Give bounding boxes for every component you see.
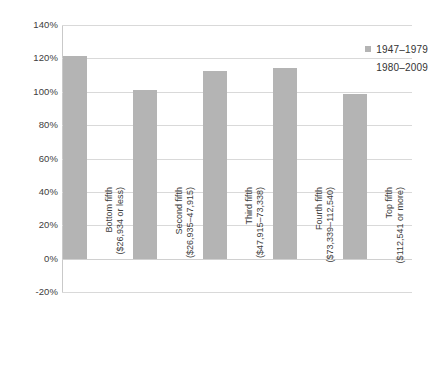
legend-item[interactable]: 1980–2009 [296, 58, 428, 76]
category-label-line2: ($26,934 or less) [115, 187, 126, 297]
legend-label: 1980–2009 [376, 62, 428, 73]
bar-chart: 140%120%100%80%60%40%20%0%-20% Bottom fi… [0, 0, 441, 378]
x-axis-category-label: Fourth fifth($73,339–112,540) [314, 187, 335, 297]
legend-item[interactable]: 1947–1979 [296, 40, 428, 58]
category-label-line2: ($26,935–47,915) [185, 187, 196, 297]
x-axis-category-label: Bottom fifth($26,934 or less) [104, 187, 125, 297]
legend-swatch-icon [365, 46, 371, 52]
category-label-line1: Fourth fifth [314, 187, 325, 297]
category-label-line2: ($47,915–73,338) [255, 187, 266, 297]
category-label-line2: ($73,339–112,540) [325, 187, 336, 297]
x-axis-category-label: Third fifth($47,915–73,338) [244, 187, 265, 297]
x-axis-category-label: Second fifth($26,935–47,915) [174, 187, 195, 297]
legend-label: 1947–1979 [376, 44, 428, 55]
x-axis-category-label: Top fifth($112,541 or more) [384, 187, 405, 297]
legend-swatch-icon [365, 64, 371, 70]
chart-legend: 1947–19791980–2009 [296, 40, 428, 76]
category-label-line1: Bottom fifth [104, 187, 115, 297]
category-label-line1: Second fifth [174, 187, 185, 297]
category-label-line2: ($112,541 or more) [395, 187, 406, 297]
category-label-line1: Top fifth [384, 187, 395, 297]
category-label-line1: Third fifth [244, 187, 255, 297]
